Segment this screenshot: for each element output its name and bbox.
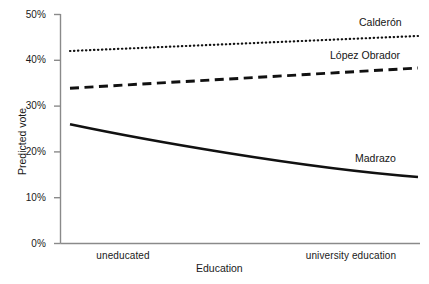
series-label-lopez-obrador: López Obrador bbox=[330, 49, 400, 61]
chart-container: 50% 40% 30% 20% 10% 0% uneducated univer… bbox=[0, 0, 429, 284]
x-tick-label-university-education: university education bbox=[276, 250, 426, 261]
series-label-madrazo: Madrazo bbox=[355, 152, 396, 164]
y-axis-title: Predicted vote bbox=[16, 108, 28, 175]
chart-plot-area bbox=[0, 0, 429, 284]
y-tick-label-10: 10% bbox=[4, 192, 46, 203]
series-line-madrazo bbox=[70, 124, 418, 177]
series-line-lopez-obrador bbox=[70, 68, 418, 88]
y-tick-label-40: 40% bbox=[4, 54, 46, 65]
x-axis-title: Education bbox=[196, 262, 243, 274]
y-axis-ticks bbox=[54, 15, 61, 244]
y-tick-label-0: 0% bbox=[4, 238, 46, 249]
series-label-calderon: Calderón bbox=[359, 16, 402, 28]
y-tick-label-50: 50% bbox=[4, 9, 46, 20]
x-tick-label-uneducated: uneducated bbox=[70, 250, 176, 261]
